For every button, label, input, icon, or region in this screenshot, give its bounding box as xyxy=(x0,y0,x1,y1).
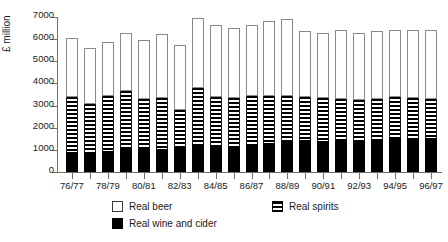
x-tick-label: 92/93 xyxy=(347,181,371,191)
x-tick-mark xyxy=(305,173,306,179)
bar xyxy=(84,48,96,172)
x-tick-mark xyxy=(234,173,235,179)
y-tick-label: 7000 xyxy=(33,10,54,20)
bar-segment-real-wine-and-cider xyxy=(389,137,401,172)
bar-segment-real-spirits xyxy=(407,98,419,138)
bar-segment-real-wine-and-cider xyxy=(210,145,222,172)
bar xyxy=(102,42,114,172)
x-tick-label: 84/85 xyxy=(204,181,228,191)
x-tick-mark xyxy=(198,173,199,179)
plot-area: 01000200030004000500060007000 76/7778/79… xyxy=(57,14,442,172)
y-tick-label: 6000 xyxy=(33,32,54,42)
bar-segment-real-wine-and-cider xyxy=(371,139,383,172)
bar xyxy=(317,33,329,173)
bar xyxy=(156,34,168,172)
striped-square-icon xyxy=(272,201,283,212)
bar xyxy=(335,30,347,172)
bar-segment-real-beer xyxy=(246,25,258,96)
bar-segment-real-spirits xyxy=(228,98,240,147)
bar-segment-real-wine-and-cider xyxy=(335,141,347,172)
x-tick-label: 88/89 xyxy=(276,181,300,191)
bar-segment-real-spirits xyxy=(210,97,222,146)
bar-segment-real-beer xyxy=(407,30,419,98)
bar-group xyxy=(57,14,442,172)
x-tick-mark xyxy=(269,173,270,179)
bar-segment-real-spirits xyxy=(281,96,293,141)
bar-segment-real-wine-and-cider xyxy=(299,140,311,172)
x-tick-label: 94/95 xyxy=(383,181,407,191)
bar xyxy=(138,40,150,172)
bar-segment-real-wine-and-cider xyxy=(174,148,186,172)
bar-segment-real-wine-and-cider xyxy=(281,141,293,172)
bar-segment-real-wine-and-cider xyxy=(66,152,78,172)
bar-segment-real-beer xyxy=(371,31,383,99)
bar-segment-real-spirits xyxy=(425,99,437,138)
y-tick-label: 0 xyxy=(49,165,54,175)
bar-segment-real-beer xyxy=(335,30,347,99)
bar xyxy=(371,31,383,172)
y-tick-label: 3000 xyxy=(33,99,54,109)
x-tick-mark xyxy=(144,173,145,179)
chart-legend: Real beer Real wine and cider Real spiri… xyxy=(112,200,392,234)
bar-segment-real-beer xyxy=(210,25,222,97)
chart-figure: £ million 01000200030004000500060007000 … xyxy=(0,0,448,242)
x-tick-label: 82/83 xyxy=(168,181,192,191)
bar-segment-real-spirits xyxy=(335,99,347,141)
bar-segment-real-beer xyxy=(281,19,293,95)
x-tick-label: 76/77 xyxy=(60,181,84,191)
bar-segment-real-spirits xyxy=(246,96,258,146)
x-axis-labels: 76/7778/7980/8182/8384/8586/8788/8990/91… xyxy=(57,181,442,195)
x-tick-mark xyxy=(377,173,378,179)
bar-segment-real-wine-and-cider xyxy=(192,144,204,172)
bar xyxy=(174,45,186,172)
bar-segment-real-spirits xyxy=(299,97,311,140)
x-tick-mark xyxy=(180,173,181,179)
bar-segment-real-spirits xyxy=(84,104,96,152)
bar xyxy=(263,21,275,172)
bar-segment-real-wine-and-cider xyxy=(407,138,419,172)
bar xyxy=(246,25,258,172)
bar-segment-real-beer xyxy=(102,42,114,95)
bar-segment-real-spirits xyxy=(102,96,114,151)
bar-segment-real-beer xyxy=(156,34,168,98)
x-tick-mark xyxy=(359,173,360,179)
bar-segment-real-wine-and-cider xyxy=(263,143,275,172)
bar-segment-real-spirits xyxy=(156,98,168,149)
bar-segment-real-beer xyxy=(84,48,96,104)
x-tick-mark xyxy=(216,173,217,179)
bar-segment-real-spirits xyxy=(192,88,204,144)
x-tick-mark xyxy=(126,173,127,179)
bar xyxy=(407,30,419,172)
bar-segment-real-beer xyxy=(353,33,365,101)
bar xyxy=(192,18,204,172)
x-tick-mark xyxy=(395,173,396,179)
y-tick-label: 5000 xyxy=(33,54,54,64)
bar-segment-real-beer xyxy=(425,30,437,99)
bar xyxy=(228,28,240,172)
x-tick-mark xyxy=(431,173,432,179)
legend-label-real-beer: Real beer xyxy=(129,202,172,212)
bar-segment-real-spirits xyxy=(317,98,329,141)
bar-segment-real-wine-and-cider xyxy=(138,149,150,172)
bar-segment-real-spirits xyxy=(66,97,78,152)
bar xyxy=(66,38,78,172)
x-tick-label: 80/81 xyxy=(132,181,156,191)
legend-item-real-spirits: Real spirits xyxy=(272,200,338,213)
x-tick-label: 90/91 xyxy=(311,181,335,191)
y-tick-label: 2000 xyxy=(33,121,54,131)
bar xyxy=(210,25,222,172)
bar xyxy=(389,30,401,172)
bar-segment-real-beer xyxy=(66,38,78,97)
bar-segment-real-wine-and-cider xyxy=(102,151,114,172)
y-axis-title: £ million xyxy=(2,15,12,52)
bar-segment-real-beer xyxy=(174,45,186,110)
bar-segment-real-spirits xyxy=(389,97,401,137)
white-square-icon xyxy=(112,201,123,212)
x-tick-mark xyxy=(413,173,414,179)
bar-segment-real-spirits xyxy=(120,91,132,149)
bar-segment-real-wine-and-cider xyxy=(120,149,132,172)
x-tick-label: 96/97 xyxy=(419,181,443,191)
x-tick-mark xyxy=(72,173,73,179)
x-tick-label: 86/87 xyxy=(240,181,264,191)
x-tick-mark xyxy=(287,173,288,179)
